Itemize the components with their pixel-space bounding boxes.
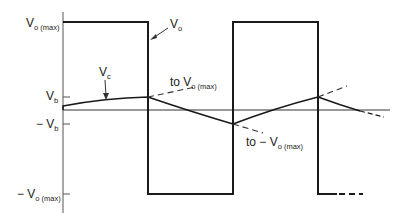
vo-square-wave xyxy=(63,22,337,194)
asymptote-to-vo-max-2 xyxy=(318,86,347,97)
vc-continuation-dashed xyxy=(360,111,384,117)
label-vo-max: Vo (max) xyxy=(26,16,60,32)
asymptote-to-neg-vo-max xyxy=(233,124,263,133)
label-neg-vb: − Vb xyxy=(36,117,59,133)
label-vo: Vo xyxy=(170,17,182,33)
vo-arrowhead-icon xyxy=(150,34,157,40)
label-to-vo-max: to Vo (max) xyxy=(170,75,217,91)
label-to-neg-vo-max: to − Vo (max) xyxy=(246,135,304,151)
label-vc: Vc xyxy=(99,65,111,81)
label-vb: Vb xyxy=(46,89,58,105)
label-neg-vo-max: − Vo (max) xyxy=(17,187,61,203)
multivibrator-waveform-diagram: Vo (max) Vb − Vb − Vo (max) Vo Vc to Vo … xyxy=(0,0,405,222)
